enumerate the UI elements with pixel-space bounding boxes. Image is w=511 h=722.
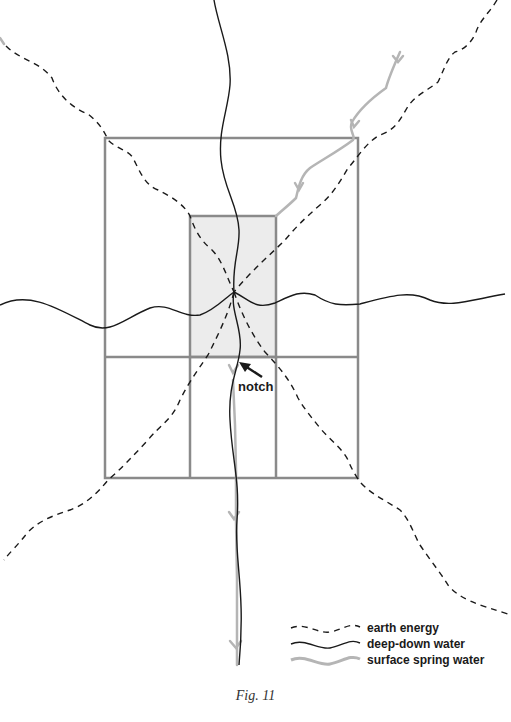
notch-annotation: notch [238, 362, 273, 394]
plan-frame [105, 138, 358, 478]
legend-label-surface-spring-water: surface spring water [367, 653, 485, 667]
flow-arrow-icon [351, 120, 359, 127]
legend: earth energy deep-down water surface spr… [291, 621, 485, 667]
legend-swatch-earth-energy [291, 625, 360, 632]
legend-label-deep-down-water: deep-down water [367, 637, 465, 651]
diagram-canvas: notch earth energy deep-down water surfa… [0, 0, 511, 722]
notch-label: notch [238, 379, 273, 394]
flow-arrow-icon [230, 641, 241, 648]
surface-water-left-stub [0, 38, 4, 44]
shaded-center-room [190, 216, 276, 357]
legend-swatch-deep-down-water [291, 641, 360, 648]
figure-caption: Fig. 11 [0, 688, 511, 704]
legend-swatch-surface-spring-water [291, 657, 360, 664]
legend-label-earth-energy: earth energy [367, 621, 439, 635]
notch-arrowhead-icon [239, 362, 251, 372]
